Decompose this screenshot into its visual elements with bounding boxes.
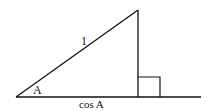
hypotenuse-label: 1: [81, 34, 87, 48]
right-angle-marker: [138, 77, 160, 97]
base-label: cos A: [79, 98, 104, 110]
angle-label: A: [33, 83, 42, 97]
triangle-diagram: A 1 cos A: [0, 0, 209, 111]
